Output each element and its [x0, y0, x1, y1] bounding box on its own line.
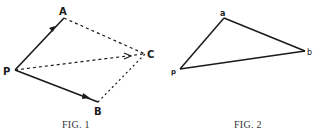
diagram-canvas: P A C B FIG. 1 p a b FIG. 2 [0, 0, 320, 132]
dashed-resultant-pc [15, 54, 143, 70]
dashed-side-ac [64, 18, 145, 54]
figure-2: p a b FIG. 2 [171, 9, 312, 130]
label-p-small: p [171, 68, 176, 76]
label-b-small: b [307, 48, 312, 57]
label-c: C [147, 49, 154, 60]
figure-1: P A C B FIG. 1 [3, 6, 154, 130]
label-a: A [59, 6, 67, 17]
arrowhead-pb-icon [82, 93, 90, 99]
side-pa [180, 18, 224, 69]
side-ab [224, 18, 305, 51]
label-a-small: a [220, 9, 225, 18]
dashed-side-bc [98, 54, 145, 102]
label-p: P [3, 66, 10, 77]
label-b: B [94, 106, 102, 117]
side-pb [180, 51, 305, 69]
figure-1-caption: FIG. 1 [62, 119, 90, 130]
vector-pa [15, 18, 64, 70]
figure-2-caption: FIG. 2 [234, 119, 262, 130]
